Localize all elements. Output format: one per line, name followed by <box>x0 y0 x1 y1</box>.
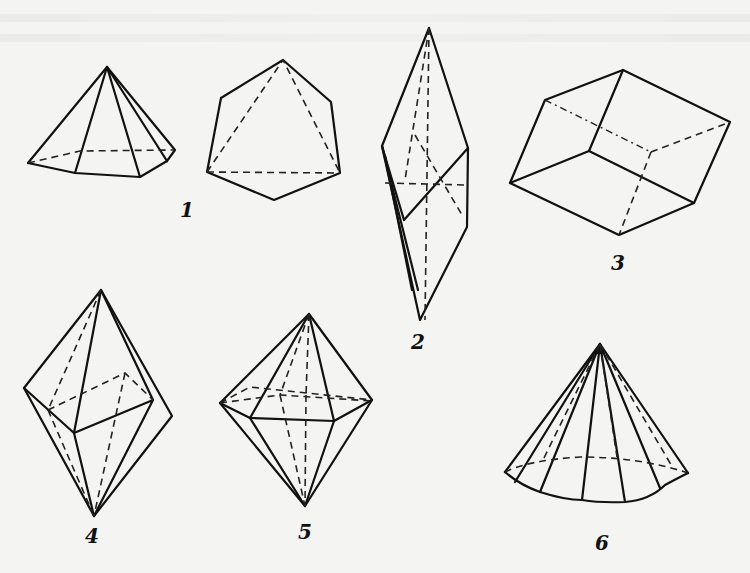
figure-label-4: 4 <box>85 524 99 548</box>
figure-4-bipyramid <box>24 290 172 516</box>
figure-1-octahedron <box>207 60 340 200</box>
figure-label-2: 2 <box>411 330 425 354</box>
figure-5-bipyramid <box>220 314 372 506</box>
polyhedra-diagram <box>0 0 750 573</box>
figure-3-rhombohedron <box>510 70 730 235</box>
figure-label-6: 6 <box>595 531 609 555</box>
figure-label-5: 5 <box>298 520 312 544</box>
figure-label-3: 3 <box>611 251 625 275</box>
figure-2-bipyramid <box>382 28 468 320</box>
figure-6-pyramid <box>505 343 688 502</box>
figure-label-1: 1 <box>180 198 194 222</box>
figure-1-pyramid <box>28 67 175 177</box>
